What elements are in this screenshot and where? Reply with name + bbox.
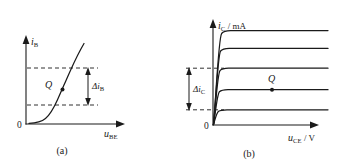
panel-b-delta-arrow bbox=[186, 67, 192, 111]
panel-a-caption: (a) bbox=[56, 145, 67, 157]
panel-a-delta-arrow bbox=[85, 67, 91, 106]
panel-b-y-axis-label: iC/ mA bbox=[218, 20, 246, 32]
panel-b-y-subscript: C bbox=[221, 25, 226, 32]
panel-b-origin-label: 0 bbox=[204, 121, 209, 131]
panel-b-x-unit: / V bbox=[304, 133, 316, 143]
panel-b-y-unit: / mA bbox=[228, 21, 247, 31]
panel-b-delta-label: ΔiC bbox=[192, 84, 206, 95]
panel-a-delta-label: ΔiB bbox=[91, 81, 105, 92]
panel-b-q-point bbox=[270, 88, 274, 92]
figure-root: Q ΔiB iB uBE 0 (a) bbox=[0, 0, 350, 166]
panel-b-q-label: Q bbox=[268, 73, 276, 84]
panel-a-y-axis-label: iB bbox=[31, 36, 39, 48]
panel-a-y-subscript: B bbox=[34, 41, 39, 48]
panel-a-y-axis bbox=[23, 35, 30, 124]
panel-a-q-label: Q bbox=[45, 79, 53, 90]
panel-a-origin-label: 0 bbox=[17, 120, 22, 130]
transistor-characteristics-diagram: Q ΔiB iB uBE 0 (a) bbox=[0, 0, 350, 166]
panel-b-curve-4 bbox=[214, 48, 329, 124]
panel-b-curve-2 bbox=[214, 90, 329, 125]
panel-b-delta-subscript: C bbox=[201, 88, 206, 95]
panel-b-x-subscript: CE bbox=[293, 137, 301, 144]
panel-a: Q ΔiB iB uBE 0 (a) bbox=[17, 35, 125, 157]
panel-a-x-subscript: BE bbox=[109, 133, 117, 140]
panel-b: ΔiC Q iC/ mA uCE/ V 0 (b) bbox=[186, 19, 328, 160]
panel-a-delta-subscript: B bbox=[100, 85, 105, 92]
panel-b-caption: (b) bbox=[243, 148, 255, 160]
panel-b-x-axis bbox=[213, 122, 319, 129]
panel-a-q-point bbox=[61, 88, 65, 92]
panel-a-input-curve bbox=[29, 44, 84, 124]
panel-b-x-axis-label: uCE/ V bbox=[288, 132, 316, 144]
panel-a-x-axis-label: uBE bbox=[104, 128, 117, 140]
